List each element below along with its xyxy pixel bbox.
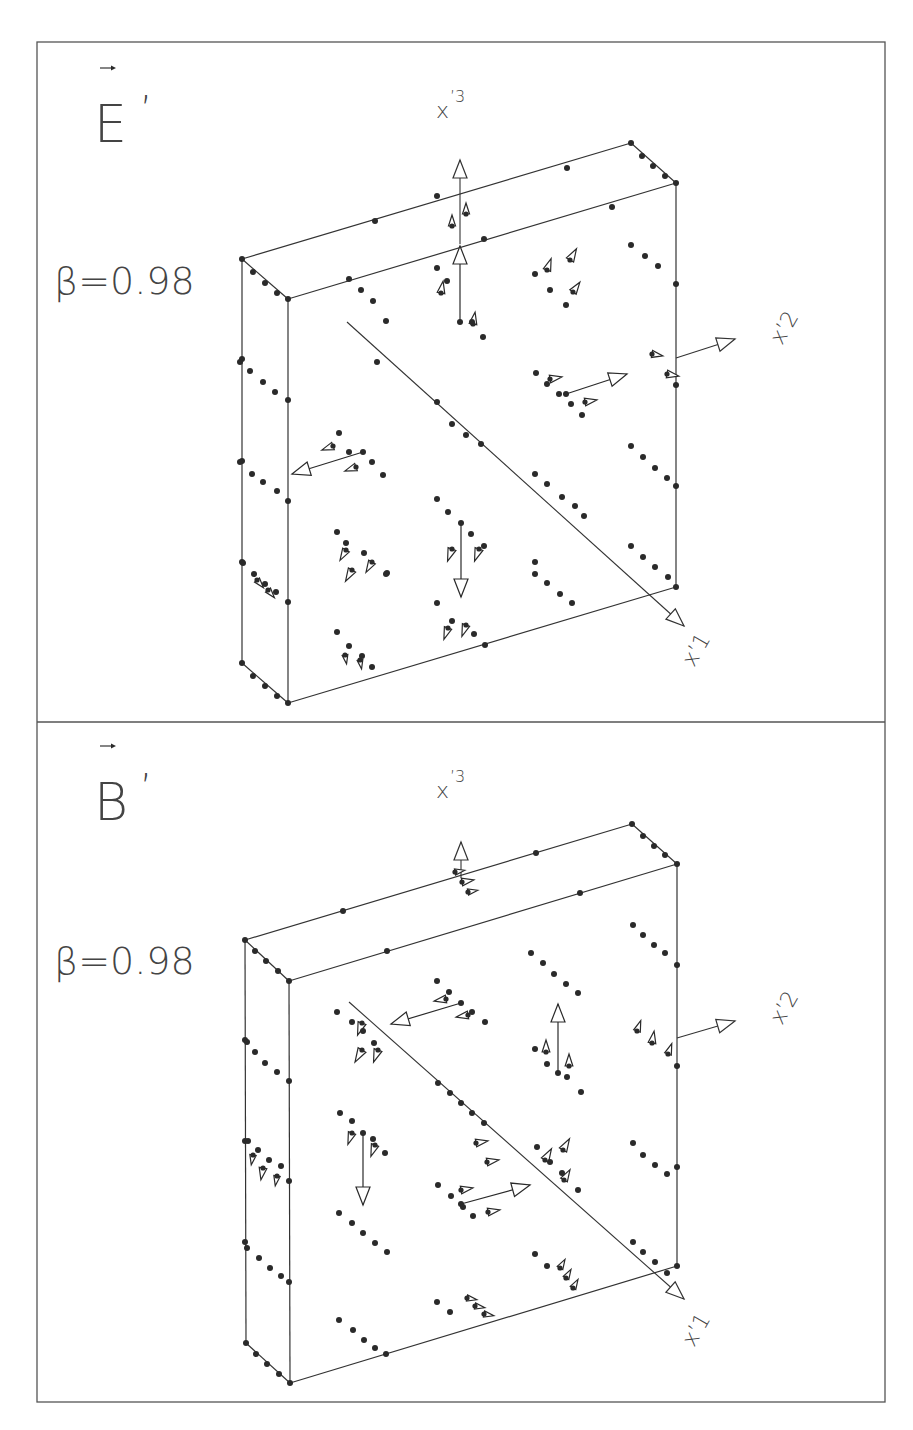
sample-point	[673, 281, 679, 287]
sample-point	[472, 1303, 477, 1308]
sample-point	[383, 571, 389, 577]
sample-point	[255, 1147, 261, 1153]
sample-point	[471, 631, 477, 637]
axis-arrowhead-icon	[453, 160, 467, 178]
sample-point	[445, 625, 450, 630]
sample-point	[371, 1040, 377, 1046]
prime-mark: ’	[140, 87, 152, 131]
sample-point	[640, 833, 646, 839]
sample-point	[250, 269, 256, 275]
sample-point	[252, 948, 258, 954]
sample-point	[649, 351, 654, 356]
sample-point	[252, 1049, 258, 1055]
sample-point	[478, 441, 484, 447]
sample-point	[350, 1327, 356, 1333]
sample-point	[286, 1178, 292, 1184]
sample-point	[665, 1051, 670, 1056]
sample-point	[435, 1182, 441, 1188]
sample-point	[380, 472, 386, 478]
sample-point	[674, 962, 680, 968]
sample-point	[372, 1142, 377, 1147]
sample-point	[662, 950, 668, 956]
sample-point	[452, 869, 457, 874]
sample-point	[481, 1311, 486, 1316]
sample-point	[285, 700, 291, 706]
sample-point	[572, 503, 578, 509]
sample-point	[245, 1138, 251, 1144]
sample-point	[481, 1120, 487, 1126]
panel-magnetic-field: B’β=0.98x’3x’2x’1	[54, 744, 803, 1387]
sample-point	[274, 693, 280, 699]
sample-point	[237, 459, 243, 465]
sample-point	[374, 359, 380, 365]
sample-point	[481, 236, 487, 242]
sample-point	[533, 850, 539, 856]
sample-point	[434, 1299, 440, 1305]
sample-point	[375, 1047, 380, 1052]
sample-point	[251, 571, 257, 577]
sample-point	[438, 290, 443, 295]
sample-point	[482, 1019, 488, 1025]
field-title: E	[94, 94, 127, 154]
axis-label-x3: x	[436, 98, 449, 123]
sample-point	[458, 1187, 463, 1192]
sample-point	[274, 488, 280, 494]
sample-point	[544, 267, 549, 272]
vector-overarrow-head-icon	[111, 744, 116, 749]
sample-point	[435, 1080, 441, 1086]
sample-point	[649, 1040, 654, 1045]
sample-point	[628, 443, 634, 449]
sample-point	[256, 1255, 262, 1261]
sample-point	[570, 1285, 575, 1290]
sample-point	[372, 1345, 378, 1351]
sample-point	[567, 257, 572, 262]
sample-point	[532, 571, 538, 577]
sample-point	[443, 996, 448, 1001]
sample-point	[278, 1163, 284, 1169]
sample-point	[253, 1351, 259, 1357]
sample-point	[630, 1239, 636, 1245]
field-vector-origin	[458, 520, 464, 526]
sample-point	[247, 368, 253, 374]
sample-point	[544, 481, 550, 487]
sample-point	[652, 1259, 658, 1265]
sample-point	[532, 1046, 538, 1052]
sample-point	[336, 430, 342, 436]
sample-point	[369, 559, 374, 564]
sample-point	[349, 1130, 354, 1135]
box-edge	[245, 824, 632, 940]
sample-point	[383, 318, 389, 324]
sample-point	[346, 643, 352, 649]
sample-point	[532, 471, 538, 477]
sample-point	[360, 1230, 366, 1236]
field-title: B	[94, 772, 128, 832]
sample-point	[480, 334, 486, 340]
field-vector-origin	[555, 1070, 561, 1076]
sample-point	[582, 399, 587, 404]
sample-point	[482, 642, 488, 648]
sample-point	[575, 990, 581, 996]
sample-point	[655, 263, 661, 269]
sample-point	[250, 673, 256, 679]
sample-point	[274, 1173, 279, 1178]
sample-point	[532, 559, 538, 565]
sample-point	[336, 1210, 342, 1216]
sample-point	[349, 567, 354, 572]
field-vector-head-icon	[551, 1004, 565, 1022]
sample-point	[664, 1171, 670, 1177]
sample-point	[285, 397, 291, 403]
sample-point	[262, 683, 268, 689]
sample-point	[469, 319, 475, 325]
field-vector-origin	[458, 1000, 464, 1006]
sample-point	[369, 664, 375, 670]
sample-point	[434, 399, 440, 405]
axis-arrowhead-icon	[666, 609, 684, 626]
panel-electric-field: E’β=0.98x’3x’2x’1	[54, 66, 803, 707]
vector-overarrow-head-icon	[111, 66, 116, 71]
box-edge	[290, 1266, 677, 1383]
sample-point	[564, 165, 570, 171]
sample-point	[463, 622, 468, 627]
field-vector-head-icon	[391, 1012, 410, 1025]
axis-arrowhead-icon	[716, 338, 735, 351]
sample-point	[542, 1157, 547, 1162]
